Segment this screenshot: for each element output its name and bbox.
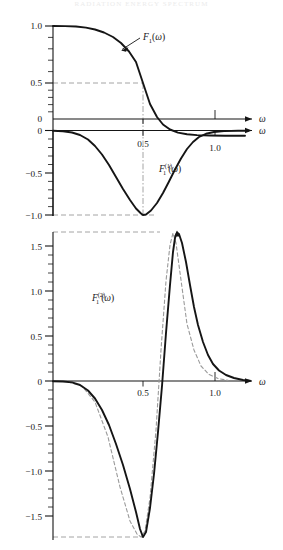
curve-F1-second-derivative-dashed (68, 233, 228, 537)
xtick-label-0p5-lower: 0.5 (137, 388, 149, 398)
curve-label-F1-text: F1(ω) (142, 32, 165, 44)
curve-label-F1-second-derivative: F(2)1(ω) (91, 291, 114, 305)
upper-panel: 1.0 0.5 0 ω F1(ω) (31, 21, 266, 216)
figure-svg: 1.0 0.5 0 ω F1(ω) ω (0, 0, 283, 550)
xtick-label-1p0-lower: 1.0 (209, 388, 221, 398)
upper-ytick-label-0: 0 (37, 114, 42, 124)
lower-ytick-label-0: 0 (37, 377, 42, 387)
derivative-ytick-label-minus0p5: −0.5 (25, 169, 42, 179)
upper-x-axis-label: ω (259, 114, 266, 124)
figure-container: 1.0 0.5 0 ω F1(ω) ω (0, 0, 283, 550)
curve-F1-second-derivative (53, 233, 250, 538)
upper-ytick-label-0p5: 0.5 (31, 78, 43, 88)
lower-ytick-label-0p5: 0.5 (31, 332, 43, 342)
curve-label-F1d2-text: F(2)1(ω) (91, 291, 114, 305)
upper-x-axis-arrowhead (245, 116, 252, 121)
lower-ytick-label-minus0p5: −0.5 (25, 422, 42, 432)
lower-x-axis-label: ω (259, 377, 266, 387)
upper-panel-derivative: ω 0 −0.5 −1.0 0.5 1.0 F(1)1(ω) (25, 126, 266, 221)
lower-y-ticks (45, 246, 53, 516)
derivative-x-axis-label: ω (259, 126, 266, 136)
upper-ytick-label-1p0: 1.0 (31, 21, 43, 31)
xtick-label-0p5-upper: 0.5 (137, 139, 149, 149)
upper-y-ticks (45, 26, 53, 112)
curve-label-F1-first-derivative: F(1)1(ω) (158, 162, 181, 176)
lower-ytick-label-minus1p0: −1.0 (25, 467, 42, 477)
F1-leader-line (122, 38, 140, 50)
xtick-label-1p0-upper: 1.0 (209, 143, 221, 153)
lower-ytick-label-minus1p5: −1.5 (25, 512, 42, 522)
lower-ytick-label-1p5: 1.5 (31, 242, 43, 252)
lower-panel: 1.5 1.0 0.5 0 −0.5 −1.0 −1.5 ω 0.5 1.0 F… (25, 231, 266, 541)
curve-label-F1d1-text: F(1)1(ω) (158, 162, 181, 176)
upper-guide-lines (53, 83, 156, 215)
curve-label-F1: F1(ω) (142, 32, 165, 44)
derivative-y-ticks (45, 131, 53, 216)
derivative-ytick-label-minus1p0: −1.0 (25, 211, 42, 221)
lower-ytick-label-1p0: 1.0 (31, 287, 43, 297)
derivative-ytick-label-0: 0 (37, 126, 42, 136)
